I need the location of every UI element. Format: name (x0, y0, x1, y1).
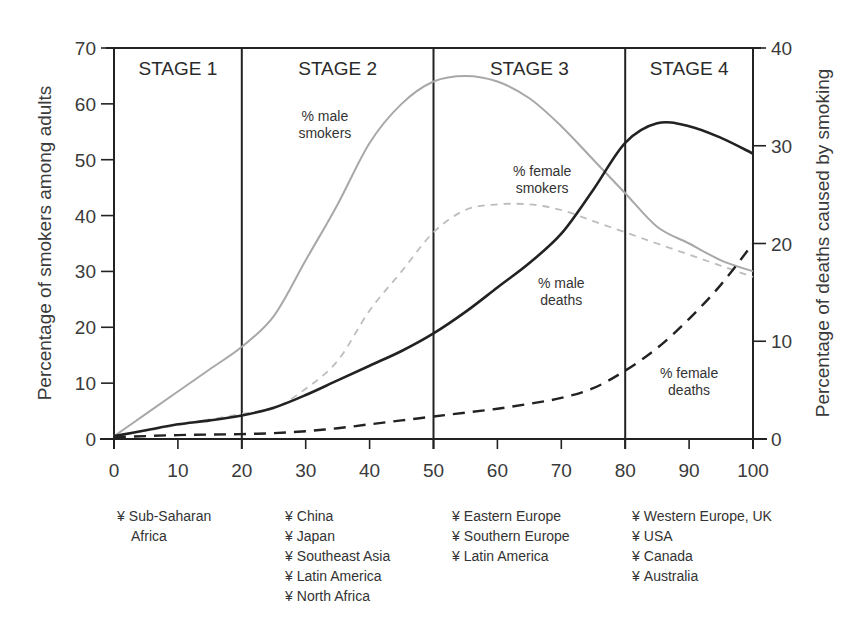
series-annotation: % malesmokers (298, 108, 351, 141)
series-annotation: % maledeaths (538, 275, 585, 308)
series-annotation: % femalesmokers (513, 163, 572, 196)
region-item: ¥Southeast Asia (285, 546, 390, 566)
region-item: ¥Southern Europe (452, 526, 570, 546)
series-annotation: % femaledeaths (660, 365, 719, 398)
bullet-icon: ¥ (452, 528, 460, 544)
smoking-epidemic-chart: STAGE 1STAGE 2STAGE 3STAGE 4 01020304050… (0, 0, 859, 500)
annotation-line: % male (538, 275, 585, 291)
x-tick-label: 60 (487, 460, 508, 481)
y-tick-label-left: 70 (75, 38, 96, 59)
region-item: ¥China (285, 506, 390, 526)
x-tick-label: 30 (295, 460, 316, 481)
y-tick-label-left: 30 (75, 261, 96, 282)
bullet-icon: ¥ (285, 568, 293, 584)
y-tick-label-left: 50 (75, 150, 96, 171)
annotation-line: deaths (668, 382, 710, 398)
y-tick-label-left: 60 (75, 94, 96, 115)
bullet-icon: ¥ (452, 508, 460, 524)
x-tick-label: 100 (737, 460, 769, 481)
annotation-line: % female (660, 365, 719, 381)
region-list-stage-4: ¥Western Europe, UK¥USA¥Canada¥Australia (632, 506, 772, 586)
x-tick-label: 20 (231, 460, 252, 481)
y-tick-label-right: 10 (771, 331, 792, 352)
bullet-icon: ¥ (285, 508, 293, 524)
bullet-icon: ¥ (285, 528, 293, 544)
x-tick-label: 40 (359, 460, 380, 481)
bullet-icon: ¥ (632, 568, 640, 584)
y-tick-label-left: 40 (75, 206, 96, 227)
annotation-line: % female (513, 163, 572, 179)
stage-label: STAGE 1 (138, 58, 217, 79)
x-tick-label: 0 (109, 460, 120, 481)
region-item: ¥Latin America (285, 566, 390, 586)
region-item: ¥Eastern Europe (452, 506, 570, 526)
x-tick-label: 10 (167, 460, 188, 481)
region-item: Africa (117, 526, 211, 546)
annotation-line: smokers (298, 125, 351, 141)
bullet-icon: ¥ (285, 588, 293, 604)
annotation-line: smokers (516, 180, 569, 196)
y-tick-label-right: 40 (771, 38, 792, 59)
y-tick-label-left: 0 (85, 429, 96, 450)
y-axis-left-title: Percentage of smokers among adults (34, 86, 55, 401)
stage-region-lists: ¥Sub-SaharanAfrica¥China¥Japan¥Southeast… (0, 506, 859, 626)
region-item: ¥Western Europe, UK (632, 506, 772, 526)
region-item: ¥Latin America (452, 546, 570, 566)
region-item: ¥Australia (632, 566, 772, 586)
x-tick-label: 90 (679, 460, 700, 481)
series-annotations: % malesmokers% femalesmokers% maledeaths… (298, 108, 718, 398)
region-list-stage-2: ¥China¥Japan¥Southeast Asia¥Latin Americ… (285, 506, 390, 606)
region-item: ¥USA (632, 526, 772, 546)
y-tick-label-left: 20 (75, 317, 96, 338)
stage-label: STAGE 3 (490, 58, 569, 79)
region-item: ¥North Africa (285, 586, 390, 606)
bullet-icon: ¥ (285, 548, 293, 564)
bullet-icon: ¥ (452, 548, 460, 564)
bullet-icon: ¥ (632, 548, 640, 564)
region-item: ¥Japan (285, 526, 390, 546)
x-tick-label: 70 (551, 460, 572, 481)
stage-dividers: STAGE 1STAGE 2STAGE 3STAGE 4 (138, 48, 728, 449)
bullet-icon: ¥ (117, 508, 125, 524)
stage-label: STAGE 2 (298, 58, 377, 79)
y-tick-label-left: 10 (75, 373, 96, 394)
y-tick-label-right: 30 (771, 136, 792, 157)
region-list-stage-3: ¥Eastern Europe¥Southern Europe¥Latin Am… (452, 506, 570, 566)
region-item: ¥Canada (632, 546, 772, 566)
x-tick-label: 50 (423, 460, 444, 481)
stage-label: STAGE 4 (650, 58, 729, 79)
bullet-icon: ¥ (632, 528, 640, 544)
annotation-line: deaths (540, 292, 582, 308)
bullet-icon: ¥ (632, 508, 640, 524)
x-tick-label: 80 (615, 460, 636, 481)
region-list-stage-1: ¥Sub-SaharanAfrica (117, 506, 211, 546)
region-item: ¥Sub-Saharan (117, 506, 211, 526)
y-axis-right-title: Percentage of deaths caused by smoking (812, 69, 833, 418)
y-tick-label-right: 0 (771, 429, 782, 450)
annotation-line: % male (302, 108, 349, 124)
y-tick-label-right: 20 (771, 234, 792, 255)
